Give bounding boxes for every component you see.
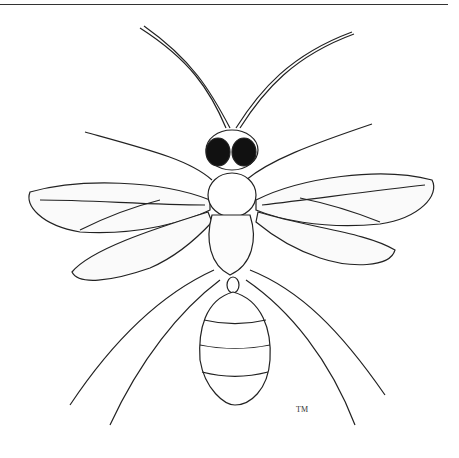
antennae bbox=[140, 26, 354, 128]
head bbox=[206, 130, 258, 170]
right-eye bbox=[232, 138, 256, 166]
left-eye bbox=[206, 138, 230, 166]
thorax bbox=[208, 173, 256, 275]
left-wings bbox=[29, 183, 212, 280]
abdomen bbox=[200, 277, 271, 405]
right-wings bbox=[256, 174, 434, 265]
artist-signature: TM bbox=[296, 405, 308, 414]
ant-illustration bbox=[0, 0, 459, 458]
